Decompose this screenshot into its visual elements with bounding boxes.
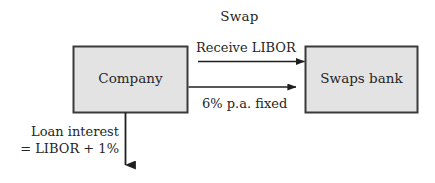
edge-label-fixed-rate: 6% p.a. fixed bbox=[202, 96, 287, 111]
node-label-swaps-bank: Swaps bank bbox=[305, 70, 418, 86]
edge-label-loan-interest-line-2: = LIBOR + 1% bbox=[6, 141, 119, 158]
edge-label-loan-interest: Loan interest = LIBOR + 1% bbox=[6, 124, 119, 157]
edge-label-receive-libor: Receive LIBOR bbox=[196, 40, 296, 55]
node-label-company: Company bbox=[73, 70, 188, 86]
edge-label-loan-interest-line-1: Loan interest bbox=[6, 124, 119, 141]
swap-diagram: Swap Company Swaps bank Receive LIBOR 6%… bbox=[0, 0, 435, 183]
